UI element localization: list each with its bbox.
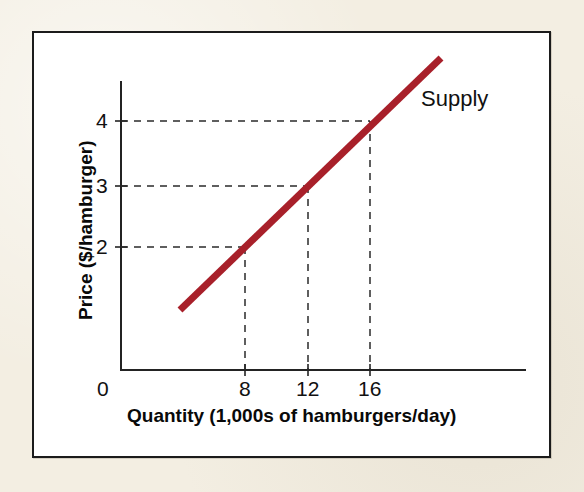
series-label-supply: Supply bbox=[421, 88, 488, 110]
x-tick-label-16: 16 bbox=[358, 378, 381, 399]
y-tick-label-3: 3 bbox=[96, 175, 108, 196]
origin-label: 0 bbox=[97, 378, 109, 399]
x-tick-label-12: 12 bbox=[296, 378, 319, 399]
y-axis-title: Price ($/hamburger) bbox=[76, 141, 95, 321]
y-tick-label-2: 2 bbox=[96, 236, 108, 257]
x-axis-title: Quantity (1,000s of hamburgers/day) bbox=[127, 406, 456, 425]
y-tick-label-4: 4 bbox=[96, 110, 108, 131]
x-tick-label-8: 8 bbox=[239, 378, 251, 399]
